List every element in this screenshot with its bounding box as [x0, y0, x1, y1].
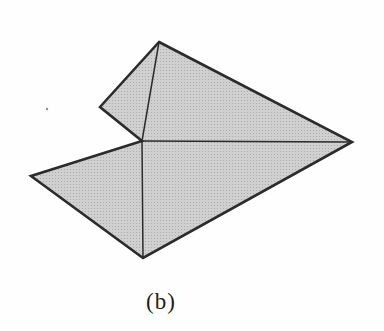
internal-edge: [142, 141, 143, 258]
geometry-figure: [0, 0, 384, 331]
figure-label: (b): [0, 289, 322, 315]
internal-edge: [142, 141, 352, 142]
print-speck: [46, 108, 48, 110]
figure-panel: (b): [0, 0, 384, 331]
concave-hexagon: [31, 42, 352, 258]
